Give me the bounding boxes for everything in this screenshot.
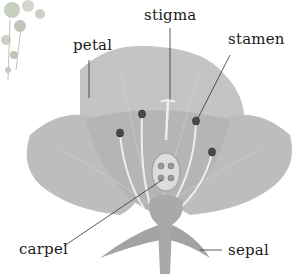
stigma-label: stigma: [144, 8, 197, 23]
petal-label: petal: [73, 38, 112, 53]
flower-diagram: petal stigma stamen carpel sepal: [0, 0, 303, 274]
stamen-label: stamen: [228, 32, 285, 47]
carpel-label: carpel: [19, 242, 68, 257]
sepal-label: sepal: [228, 243, 269, 258]
foliage-decoration: [1, 0, 45, 80]
